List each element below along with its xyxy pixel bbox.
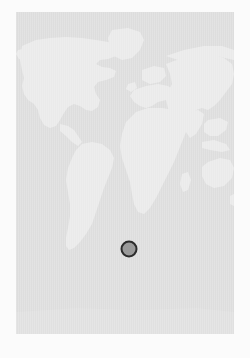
continent-south-america: [66, 142, 114, 250]
region-southern-edge: [16, 308, 234, 334]
continent-australia: [202, 158, 234, 188]
region-new-zealand: [230, 194, 234, 206]
region-madagascar: [180, 172, 191, 192]
region-southeast-asia: [204, 118, 228, 136]
location-marker[interactable]: [121, 241, 138, 258]
map-widget-root: [0, 0, 250, 358]
region-scandinavia: [142, 66, 166, 84]
world-map-panel[interactable]: [16, 12, 234, 334]
continent-central-america: [60, 124, 82, 146]
map-landmasses: [16, 12, 234, 334]
region-indonesia: [202, 140, 230, 152]
